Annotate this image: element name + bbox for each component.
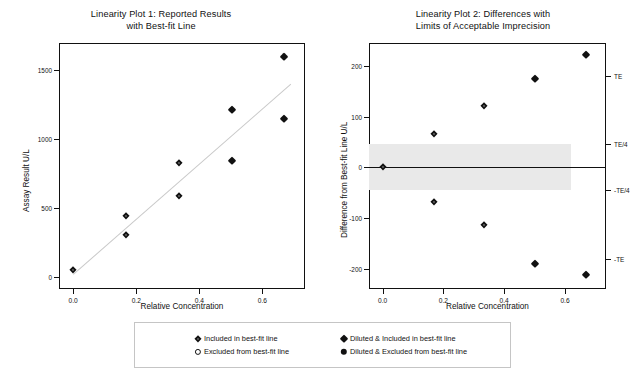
y-axis-tick-label: 1000 xyxy=(38,136,52,143)
y-axis-tick xyxy=(54,139,59,140)
data-point-diamond-filled xyxy=(581,51,590,60)
plot1-title: Linearity Plot 1: Reported Results with … xyxy=(0,8,322,32)
y-axis-tick-label: 0 xyxy=(48,273,52,280)
right-axis-tick xyxy=(606,144,611,145)
x-axis-tick xyxy=(73,289,74,294)
plot2-x-axis-title: Relative Concentration xyxy=(446,302,529,311)
x-axis-tick-label: 0.2 xyxy=(132,297,141,304)
x-axis-tick xyxy=(504,289,505,294)
y-axis-tick xyxy=(364,66,369,67)
data-point-diamond-filled xyxy=(227,105,236,114)
y-axis-tick xyxy=(364,218,369,219)
data-point-diamond-filled xyxy=(227,156,236,165)
y-axis-tick xyxy=(364,167,369,168)
data-point-diamond-filled xyxy=(531,74,540,83)
y-axis-tick-label: 0 xyxy=(358,164,362,171)
plot1-plot-area: 0.00.20.40.6050010001500 xyxy=(59,43,305,289)
best-fit-line xyxy=(73,84,291,275)
x-axis-tick xyxy=(383,289,384,294)
legend-item-label: Excluded from best-fit line xyxy=(204,347,289,356)
data-point-diamond-open xyxy=(481,221,488,228)
y-axis-tick xyxy=(364,117,369,118)
legend-item-label: Included in best-fit line xyxy=(204,334,278,343)
y-axis-tick-label: 500 xyxy=(41,204,52,211)
plot2-title-line2: Limits of Acceptable Imprecision xyxy=(322,20,644,32)
data-point-diamond-filled xyxy=(279,52,288,61)
x-axis-tick-label: 0.0 xyxy=(69,297,78,304)
legend-box: Included in best-fit lineExcluded from b… xyxy=(134,322,511,368)
right-axis-tick-label: -TE/4 xyxy=(614,187,630,194)
plot1-y-axis-title: Assay Result U/L xyxy=(22,149,31,212)
plot1-x-axis-title: Relative Concentration xyxy=(141,302,224,311)
legend-item: Diluted & Excluded from best-fit line xyxy=(337,345,467,358)
legend-item-label: Diluted & Included in best-fit line xyxy=(350,334,456,343)
x-axis-tick xyxy=(443,289,444,294)
right-axis-tick-label: -TE xyxy=(614,255,624,262)
data-point-diamond-filled xyxy=(581,271,590,280)
data-point-diamond-open xyxy=(70,267,77,274)
zero-reference-line xyxy=(369,167,606,168)
x-axis-tick xyxy=(565,289,566,294)
right-axis-tick xyxy=(606,190,611,191)
legend-marker-circle-filled-icon xyxy=(337,345,350,358)
data-point-diamond-open xyxy=(123,212,130,219)
x-axis-tick xyxy=(199,289,200,294)
y-axis-tick xyxy=(54,208,59,209)
y-axis-tick-label: 200 xyxy=(351,62,362,69)
plot2-title-line1: Linearity Plot 2: Differences with xyxy=(416,9,550,19)
legend-item: Included in best-fit line xyxy=(191,332,289,345)
right-axis-tick xyxy=(606,259,611,260)
y-axis-tick-label: 100 xyxy=(351,113,362,120)
y-axis-tick xyxy=(54,70,59,71)
y-axis-tick xyxy=(364,269,369,270)
plot2-title: Linearity Plot 2: Differences with Limit… xyxy=(322,8,644,32)
y-axis-tick-label: -100 xyxy=(349,214,362,221)
plot1-title-line1: Linearity Plot 1: Reported Results xyxy=(91,9,231,19)
x-axis-tick xyxy=(262,289,263,294)
data-point-diamond-open xyxy=(175,160,182,167)
y-axis-tick xyxy=(54,277,59,278)
linearity-figure: Linearity Plot 1: Reported Results with … xyxy=(0,0,644,381)
legend-item: Excluded from best-fit line xyxy=(191,345,289,358)
y-axis-tick-label: -200 xyxy=(349,265,362,272)
plot2-y-axis-title: Difference from Best-fit Line U/L xyxy=(340,122,349,238)
data-point-diamond-open xyxy=(481,103,488,110)
legend-item-label: Diluted & Excluded from best-fit line xyxy=(350,347,467,356)
linearity-plot-2-panel: Linearity Plot 2: Differences with Limit… xyxy=(322,0,644,315)
data-point-diamond-open xyxy=(430,130,437,137)
plot2-plot-area: 0.00.20.40.6-200-1000100200TETE/4-TE/4-T… xyxy=(369,43,606,289)
linearity-plot-1-panel: Linearity Plot 1: Reported Results with … xyxy=(0,0,322,315)
x-axis-tick-label: 0.6 xyxy=(258,297,267,304)
data-point-diamond-filled xyxy=(279,114,288,123)
data-point-diamond-open xyxy=(123,232,130,239)
x-axis-tick xyxy=(136,289,137,294)
legend-marker-diamond-open-icon xyxy=(191,332,204,345)
right-axis-tick-label: TE/4 xyxy=(614,141,628,148)
y-axis-tick-label: 1500 xyxy=(38,67,52,74)
data-point-diamond-filled xyxy=(531,259,540,268)
right-axis-tick-label: TE xyxy=(614,72,622,79)
legend-item: Diluted & Included in best-fit line xyxy=(337,332,467,345)
data-point-diamond-open xyxy=(430,199,437,206)
legend-marker-circle-open-icon xyxy=(191,345,204,358)
legend-column-left: Included in best-fit lineExcluded from b… xyxy=(191,332,289,358)
x-axis-tick-label: 0.6 xyxy=(560,297,569,304)
x-axis-tick-label: 0.0 xyxy=(378,297,387,304)
data-point-diamond-open xyxy=(175,193,182,200)
legend-marker-diamond-filled-icon xyxy=(337,332,350,345)
legend-column-right: Diluted & Included in best-fit lineDilut… xyxy=(337,332,467,358)
right-axis-tick xyxy=(606,76,611,77)
plot1-title-line2: with Best-fit Line xyxy=(0,20,322,32)
